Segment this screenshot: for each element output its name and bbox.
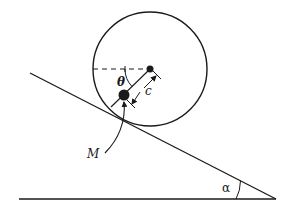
- alpha-label: α: [222, 181, 230, 195]
- theta-arc: [125, 69, 132, 87]
- c-dimension-line-lower: [132, 92, 140, 104]
- diagram-canvas: θ c M α: [0, 0, 295, 213]
- theta-label: θ: [117, 75, 125, 89]
- mass-dot: [119, 90, 130, 101]
- alpha-arc: [236, 181, 241, 199]
- incline-line: [30, 73, 276, 199]
- mass-pointer-arrow: [105, 102, 124, 153]
- c-label: c: [145, 84, 152, 98]
- center-dot: [147, 66, 154, 73]
- mass-label: M: [86, 147, 100, 161]
